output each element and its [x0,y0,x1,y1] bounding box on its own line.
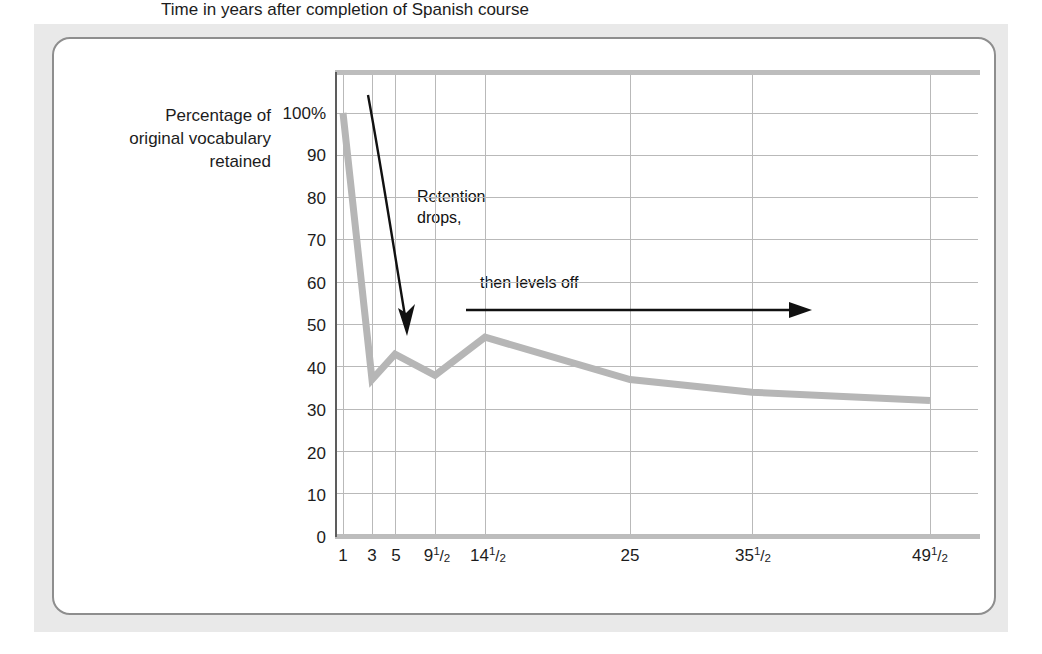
annotation-arrow-right [466,302,812,318]
plot-top-border [335,70,980,75]
horizontal-gridlines [336,113,978,536]
retention-data-line [343,113,930,401]
figure-screen: Percentage of original vocabulary retain… [0,0,1042,654]
annotation-arrow-down [368,95,415,336]
plot-bottom-border [335,534,980,539]
vertical-gridlines [343,72,930,536]
line-chart-plot [0,0,1042,654]
